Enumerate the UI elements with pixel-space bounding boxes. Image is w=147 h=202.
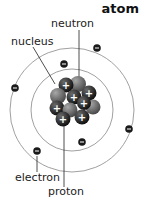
proton: + — [75, 110, 90, 125]
electron — [60, 60, 68, 68]
proton: + — [77, 96, 91, 110]
minus-icon — [127, 129, 131, 130]
atom-diagram: + + + + + + + — [0, 0, 147, 202]
minus-icon — [35, 151, 39, 152]
minus-icon — [13, 88, 17, 89]
minus-icon — [62, 64, 66, 65]
plus-icon: + — [80, 98, 88, 109]
nucleus: + + + + + + + — [50, 76, 101, 127]
plus-icon: + — [59, 114, 67, 125]
electron — [11, 84, 19, 92]
plus-icon: + — [53, 103, 61, 114]
electron — [125, 125, 133, 133]
proton: + — [56, 112, 71, 127]
plus-icon: + — [78, 112, 86, 123]
electron — [33, 147, 41, 155]
plus-icon: + — [70, 92, 78, 103]
electron — [93, 44, 101, 52]
minus-icon — [95, 48, 99, 49]
electron — [78, 138, 86, 146]
plus-icon: + — [62, 80, 70, 91]
minus-icon — [80, 142, 84, 143]
nucleus-leader-line — [33, 47, 55, 84]
